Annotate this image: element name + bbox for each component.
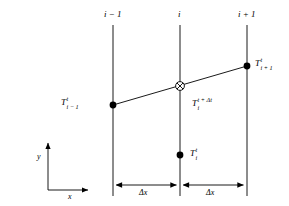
node-label-t-center-new: Tt + Δti: [192, 99, 219, 108]
node-label-t-center-new-sup: t + Δt: [198, 97, 212, 103]
filled-circle-marker-left: [110, 102, 117, 109]
node-label-t-left: Tti − 1: [61, 98, 79, 107]
grid-label-center: i: [178, 10, 181, 19]
node-label-t-center-new-base: T: [192, 98, 197, 108]
node-label-t-center-old: Tti: [190, 149, 203, 158]
node-label-t-left-base: T: [61, 97, 66, 107]
x-axis-label: x: [68, 193, 72, 201]
node-label-t-center-old-sup: t: [196, 147, 198, 153]
node-label-t-right-base: T: [255, 58, 260, 68]
crossed-circle-marker: [176, 82, 185, 91]
node-label-t-left-sup: t: [67, 96, 69, 102]
node-label-t-center-new-sub: i: [198, 105, 200, 111]
node-label-t-center-old-sub: i: [196, 155, 198, 161]
node-label-t-right: Tti + 1: [255, 59, 273, 68]
spacing-label-dx-left: Δx: [139, 189, 147, 197]
grid-label-right: i + 1: [238, 10, 256, 19]
node-label-t-right-sup: t: [261, 57, 263, 63]
y-axis-label: y: [37, 153, 41, 161]
filled-circle-marker-right: [244, 63, 251, 70]
grid-lines: [113, 25, 247, 196]
node-label-t-right-sub: i + 1: [261, 65, 273, 71]
axes-indicator: [48, 143, 88, 190]
node-label-t-center-old-base: T: [190, 148, 195, 158]
filled-circle-marker-center: [177, 152, 184, 159]
spacing-label-dx-right: Δx: [206, 189, 214, 197]
finite-difference-stencil-figure: i − 1 i i + 1 Tti − 1 Tt + Δti Tti + 1 T…: [0, 0, 289, 206]
diagram-canvas: [0, 0, 289, 206]
grid-label-left: i − 1: [104, 10, 122, 19]
node-label-t-left-sub: i − 1: [67, 104, 79, 110]
